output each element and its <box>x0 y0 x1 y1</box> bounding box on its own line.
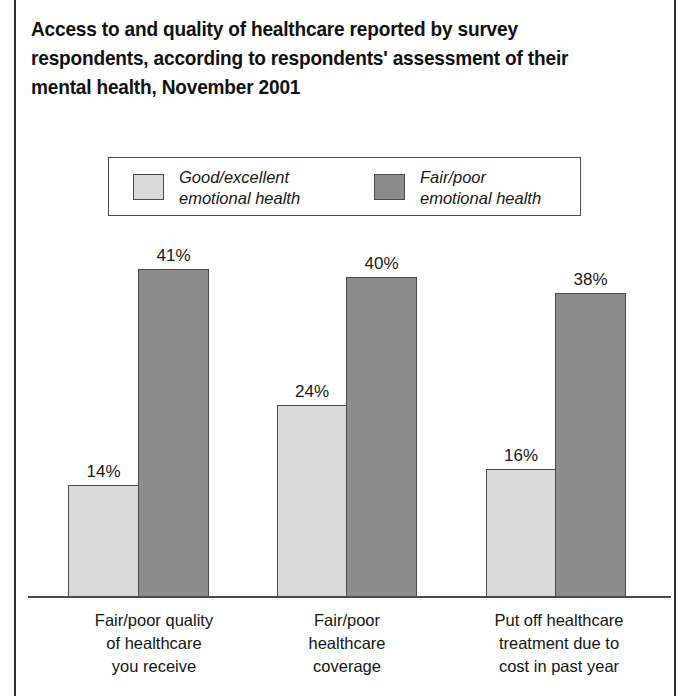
bar-label-g3-fair-poor: 38% <box>555 271 626 288</box>
bar-label-g3-good-excellent: 16% <box>486 447 556 464</box>
x-axis-label-group-2-line-3: coverage <box>241 655 453 678</box>
bar-g1-good-excellent <box>68 485 139 597</box>
plot-area: 14% 41% 24% 40% 16% 38% Fair/poor qualit… <box>0 0 687 696</box>
bar-g3-fair-poor <box>555 293 626 597</box>
chart-page: Access to and quality of healthcare repo… <box>0 0 687 696</box>
x-axis-label-group-2-line-2: healthcare <box>241 632 453 655</box>
x-axis-label-group-3-line-3: cost in past year <box>446 655 672 678</box>
x-axis-label-group-3: Put off healthcare treatment due to cost… <box>446 609 672 678</box>
bar-g2-fair-poor <box>346 277 417 597</box>
bar-g2-good-excellent <box>277 405 347 597</box>
bar-label-g2-fair-poor: 40% <box>346 255 417 272</box>
x-axis-label-group-2: Fair/poor healthcare coverage <box>241 609 453 678</box>
bar-g3-good-excellent <box>486 469 556 597</box>
x-axis-line <box>28 596 671 598</box>
bar-label-g1-good-excellent: 14% <box>68 463 139 480</box>
bar-label-g2-good-excellent: 24% <box>277 383 347 400</box>
bar-g1-fair-poor <box>138 269 209 597</box>
x-axis-label-group-3-line-2: treatment due to <box>446 632 672 655</box>
x-axis-label-group-2-line-1: Fair/poor <box>241 609 453 632</box>
bar-label-g1-fair-poor: 41% <box>138 247 209 264</box>
x-axis-label-group-3-line-1: Put off healthcare <box>446 609 672 632</box>
